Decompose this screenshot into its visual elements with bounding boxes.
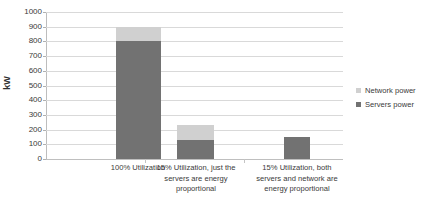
x-axis-label: 15% Utilization, just theservers are ene… [142, 163, 250, 195]
bars-layer [46, 12, 343, 159]
x-axis-category-labels: 100% Utilization15% Utilization, just th… [46, 163, 343, 197]
legend-swatch-icon [356, 88, 361, 93]
y-axis-tick-label: 700 [29, 52, 42, 60]
bar-segment-network-power[interactable] [177, 125, 214, 140]
y-axis-tick-label: 200 [29, 126, 42, 134]
y-axis-tick-label: 500 [29, 82, 42, 90]
y-axis-tick-label: 800 [29, 37, 42, 45]
legend-label: Network power [365, 86, 416, 95]
bar-group[interactable] [284, 12, 310, 159]
x-axis-label-line: energy proportional [243, 184, 351, 195]
bar-segment-servers-power[interactable] [284, 137, 310, 159]
plot-area [46, 12, 343, 159]
chart-legend: Network powerServers power [356, 84, 429, 112]
bar-segment-network-power[interactable] [116, 27, 161, 42]
legend-item[interactable]: Servers power [356, 98, 429, 110]
y-axis-tick-label: 100 [29, 140, 42, 148]
legend-swatch-icon [356, 102, 361, 107]
y-axis-tick-label: 0 [38, 155, 42, 163]
y-axis-title: kW [2, 76, 12, 90]
x-axis-label-line: 15% Utilization, both [243, 163, 351, 174]
bar-group[interactable] [116, 12, 161, 159]
x-axis-label-line: 15% Utilization, just the [142, 163, 250, 174]
chart-container: kW 10009008007006005004003002001000 100%… [0, 0, 429, 197]
gridline [46, 159, 343, 160]
x-axis-label-line: servers and network are [243, 174, 351, 185]
y-axis-tick-label: 400 [29, 96, 42, 104]
x-axis-label-line: servers are energy [142, 174, 250, 185]
y-axis-tick-labels: 10009008007006005004003002001000 [12, 12, 44, 159]
y-axis-tick [43, 159, 46, 160]
bar-segment-servers-power[interactable] [177, 140, 214, 159]
x-axis-label: 15% Utilization, bothservers and network… [243, 163, 351, 195]
y-axis-tick-label: 900 [29, 23, 42, 31]
bar-group[interactable] [177, 12, 214, 159]
legend-item[interactable]: Network power [356, 84, 429, 96]
x-axis-label-line: proportional [142, 184, 250, 195]
bar-segment-servers-power[interactable] [116, 41, 161, 159]
y-axis-tick-label: 1000 [24, 8, 42, 16]
y-axis-tick-label: 300 [29, 111, 42, 119]
y-axis-tick-label: 600 [29, 67, 42, 75]
legend-label: Servers power [365, 100, 414, 109]
